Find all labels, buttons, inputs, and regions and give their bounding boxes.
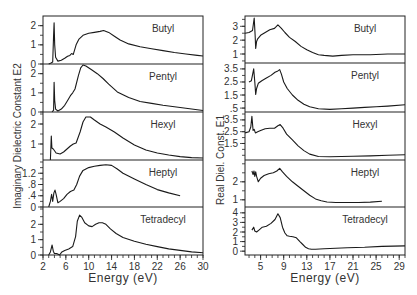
left-plot-yticks: 012012120.4.81.2012 bbox=[22, 20, 43, 260]
y-tick-label: 1 bbox=[30, 234, 36, 245]
panel-label-heptyl: Heptyl bbox=[351, 167, 379, 178]
right-x-axis-title: Energy (eV) bbox=[290, 271, 360, 285]
panel-label-tetradecyl: Tetradecyl bbox=[140, 214, 186, 225]
right-plot-yticks: 123.51.52.53.51.52.53.51201234 bbox=[224, 19, 245, 256]
x-tick-label: 5 bbox=[258, 261, 264, 272]
y-tick-label: 2 bbox=[30, 119, 36, 130]
panel-label-butyl: Butyl bbox=[152, 23, 174, 34]
panel-label-hexyl: Hexyl bbox=[150, 119, 175, 130]
left-plot-e2: 012012120.4.81.2012 26101418222630 Butyl… bbox=[12, 16, 209, 285]
curve-butyl bbox=[245, 18, 405, 56]
y-tick-label: 1 bbox=[30, 87, 36, 98]
left-y-axis-title: Imaginary Dielectric Constant E2 bbox=[12, 63, 23, 209]
y-tick-label: 4 bbox=[232, 207, 238, 218]
y-tick-label: 0 bbox=[30, 250, 36, 261]
right-plot-separators bbox=[245, 63, 405, 207]
right-plot-panel-labels: ButylPentylHexylHeptylTetradecyl bbox=[342, 23, 388, 225]
curve-hexyl bbox=[245, 116, 405, 156]
curve-butyl bbox=[49, 23, 203, 64]
y-tick-label: 2 bbox=[232, 35, 238, 46]
y-tick-label: 2.5 bbox=[224, 126, 238, 137]
y-tick-label: 2 bbox=[30, 20, 36, 31]
y-tick-label: .4 bbox=[28, 190, 37, 201]
x-tick-label: 25 bbox=[371, 261, 383, 272]
curve-pentyl bbox=[249, 69, 405, 110]
panel-label-butyl: Butyl bbox=[354, 23, 376, 34]
y-tick-label: 3 bbox=[232, 217, 238, 228]
y-tick-label: 2 bbox=[30, 68, 36, 79]
y-tick-label: 1 bbox=[30, 39, 36, 50]
curve-hexyl bbox=[50, 117, 203, 160]
right-plot-e1: 123.51.52.53.51.52.53.51201234 591317212… bbox=[215, 16, 405, 285]
y-tick-label: 3.5 bbox=[224, 114, 238, 125]
left-plot-xticks: 26101418222630 bbox=[40, 255, 209, 272]
y-tick-label: 1 bbox=[232, 236, 238, 247]
right-y-axis-title: Real Diel. Const. E1 bbox=[215, 115, 226, 205]
y-tick-label: 0 bbox=[232, 246, 238, 257]
panel-label-pentyl: Pentyl bbox=[149, 71, 177, 82]
y-tick-label: .8 bbox=[28, 179, 37, 190]
y-tick-label: 1.5 bbox=[224, 90, 238, 101]
curve-pentyl bbox=[52, 65, 203, 112]
x-tick-label: 29 bbox=[394, 261, 406, 272]
right-plot-xticks: 591317212529 bbox=[249, 255, 405, 272]
y-tick-label: 2 bbox=[30, 219, 36, 230]
y-tick-label: 1 bbox=[232, 194, 238, 205]
x-tick-label: 9 bbox=[281, 261, 287, 272]
x-tick-label: 30 bbox=[197, 261, 209, 272]
y-tick-label: 1 bbox=[30, 139, 36, 150]
x-tick-label: 2 bbox=[40, 261, 46, 272]
x-tick-label: 26 bbox=[175, 261, 187, 272]
panel-label-heptyl: Heptyl bbox=[149, 167, 177, 178]
left-x-axis-title: Energy (eV) bbox=[88, 271, 158, 285]
y-tick-label: 3 bbox=[232, 21, 238, 32]
y-tick-label: 2 bbox=[232, 176, 238, 187]
y-tick-label: .5 bbox=[230, 103, 239, 114]
y-tick-label: 0 bbox=[30, 202, 36, 213]
panel-label-pentyl: Pentyl bbox=[351, 70, 379, 81]
y-tick-label: 0 bbox=[30, 107, 36, 118]
figure: 012012120.4.81.2012 26101418222630 Butyl… bbox=[0, 0, 417, 295]
y-tick-label: 2 bbox=[232, 227, 238, 238]
y-tick-label: 3.5 bbox=[224, 63, 238, 74]
x-tick-label: 6 bbox=[63, 261, 69, 272]
y-tick-label: 1 bbox=[232, 49, 238, 60]
y-tick-label: 2.5 bbox=[224, 76, 238, 87]
y-tick-label: 1.5 bbox=[224, 138, 238, 149]
left-plot-separators bbox=[43, 64, 203, 207]
y-tick-label: 1.2 bbox=[22, 168, 36, 179]
panel-label-hexyl: Hexyl bbox=[352, 119, 377, 130]
panel-label-tetradecyl: Tetradecyl bbox=[342, 214, 388, 225]
